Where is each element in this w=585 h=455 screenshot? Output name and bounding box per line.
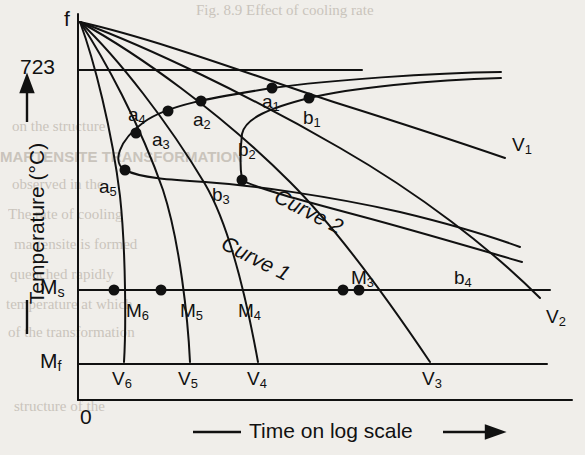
dot-a5 [120, 165, 131, 176]
point-label-sub: 1 [525, 142, 532, 157]
point-label-sub: 2 [559, 314, 566, 329]
point-label-sub: 5 [110, 184, 117, 199]
point-label-base: b [303, 107, 314, 128]
point-label-base: a [128, 104, 139, 125]
dot-b1 [304, 93, 315, 104]
y-tick-zero: 0 [80, 406, 92, 427]
point-label-m6: M6 [126, 301, 149, 323]
dot-a2 [196, 96, 207, 107]
point-label-sub: 4 [260, 376, 267, 391]
point-label-base: a [152, 129, 163, 150]
point-label-a1: a1 [262, 92, 280, 114]
point-label-base: V [546, 306, 559, 327]
point-label-base: V [247, 368, 260, 389]
dot-m5 [156, 285, 167, 296]
point-label-b1: b1 [303, 108, 321, 130]
point-label-base: M [351, 267, 367, 288]
point-label-sub: 3 [163, 137, 170, 152]
point-label-m3: M3 [351, 268, 374, 290]
point-label-v3: V3 [422, 369, 442, 391]
point-label-base: M [180, 300, 196, 321]
y-axis-arrowhead [21, 76, 33, 92]
point-label-sub: 2 [204, 117, 211, 132]
point-label-v4: V4 [247, 369, 267, 391]
point-label-base: V [422, 368, 435, 389]
origin-point-label-f: f [64, 8, 70, 29]
point-label-base: a [193, 109, 204, 130]
x-axis-title: Time on log scale [249, 420, 413, 441]
point-label-a4: a4 [128, 105, 146, 127]
y-tick-723: 723 [20, 56, 55, 77]
point-label-sub: 1 [314, 115, 321, 130]
point-label-base: V [512, 134, 525, 155]
y-tick-mf: Mf [40, 350, 61, 373]
dot-m6 [109, 285, 120, 296]
point-label-sub: 2 [249, 147, 256, 162]
point-label-v2: V2 [546, 307, 566, 329]
point-label-sub: 3 [435, 376, 442, 391]
point-label-sub: 4 [465, 275, 472, 290]
point-label-sub: 3 [367, 275, 374, 290]
cooling-curve-v1 [80, 22, 505, 158]
point-label-v1: V1 [512, 135, 532, 157]
point-label-sub: 5 [196, 308, 203, 323]
point-label-a3: a3 [152, 130, 170, 152]
point-label-sub: 4 [254, 308, 261, 323]
point-label-b3: b3 [212, 185, 230, 207]
dot-a3 [131, 128, 142, 139]
point-label-sub: 1 [273, 99, 280, 114]
point-label-m5: M5 [180, 301, 203, 323]
y-tick-mf-base: M [40, 349, 58, 372]
y-tick-ms-sub: s [58, 284, 65, 300]
point-label-a5: a5 [99, 177, 117, 199]
dot-b3 [237, 175, 248, 186]
point-label-base: M [238, 300, 254, 321]
point-label-base: M [126, 300, 142, 321]
point-label-a2: a2 [193, 110, 211, 132]
point-label-v5: V5 [178, 369, 198, 391]
point-label-base: V [112, 368, 125, 389]
point-label-b4: b4 [454, 268, 472, 290]
point-label-b2: b2 [238, 140, 256, 162]
ttt-diagram-figure: Fig. 8.9 Effect of cooling rateon the st… [0, 0, 585, 455]
point-label-base: a [99, 176, 110, 197]
dot-a4 [163, 106, 174, 117]
point-label-m4: M4 [238, 301, 261, 323]
point-label-sub: 3 [223, 192, 230, 207]
point-label-sub: 5 [191, 376, 198, 391]
point-label-sub: 6 [125, 376, 132, 391]
point-label-base: V [178, 368, 191, 389]
point-label-sub: 4 [139, 112, 146, 127]
point-label-base: b [454, 267, 465, 288]
ttt-diagram-svg [0, 0, 585, 455]
dot-m3-left [338, 285, 349, 296]
y-tick-mf-sub: f [58, 358, 62, 374]
cooling-curve-v2 [80, 22, 540, 298]
point-label-base: b [238, 139, 249, 160]
y-axis-title: Temperature (°C) [26, 124, 47, 324]
point-label-base: a [262, 91, 273, 112]
x-axis-arrowhead [486, 426, 503, 438]
point-label-base: b [212, 184, 223, 205]
point-label-sub: 6 [142, 308, 149, 323]
point-label-v6: V6 [112, 369, 132, 391]
